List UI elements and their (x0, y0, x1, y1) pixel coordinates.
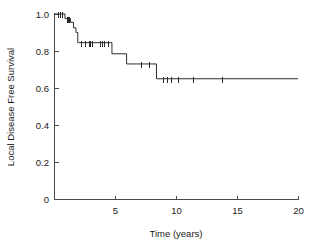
x-tick-label: 10 (171, 205, 182, 216)
x-axis-title: Time (years) (150, 228, 203, 239)
survival-plot: 00.20.40.60.81.0 5101520 Time (years) Lo… (0, 0, 314, 244)
y-axis-ticks: 00.20.40.60.81.0 (36, 9, 59, 205)
kaplan-meier-figure: 00.20.40.60.81.0 5101520 Time (years) Lo… (0, 0, 314, 244)
y-axis-title: Local Disease Free Survival (5, 48, 16, 166)
y-tick-label: 0.4 (36, 120, 49, 131)
x-tick-label: 5 (113, 205, 118, 216)
x-tick-label: 20 (293, 205, 304, 216)
y-tick-label: 0.2 (36, 157, 49, 168)
y-tick-label: 0 (44, 194, 49, 205)
y-tick-label: 0.6 (36, 83, 49, 94)
x-tick-label: 15 (232, 205, 243, 216)
y-tick-label: 0.8 (36, 46, 49, 57)
x-axis-ticks: 5101520 (55, 196, 304, 217)
y-tick-label: 1.0 (36, 9, 49, 20)
plot-axes (55, 13, 299, 200)
censor-marks-group (59, 12, 223, 83)
